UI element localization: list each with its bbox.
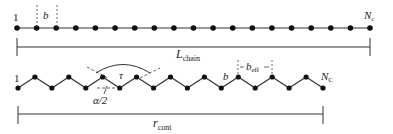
angle-label: α/2 <box>93 94 108 106</box>
top-bead <box>132 25 138 31</box>
bottom-end-label-sub: C <box>328 76 333 84</box>
zigzag-bead <box>270 74 275 79</box>
top-bead <box>191 25 197 31</box>
top-end-label-sub: c <box>371 15 374 23</box>
chain-length-label: Lchain <box>175 47 200 63</box>
top-bead <box>210 25 216 31</box>
bottom-end-label: NC <box>320 70 333 84</box>
top-bead <box>250 25 256 31</box>
zigzag-bead <box>320 85 325 90</box>
top-end-label: Nc <box>363 9 374 23</box>
zigzag-beads <box>15 74 325 90</box>
zigzag-bead <box>185 85 190 90</box>
zigzag-bead <box>66 74 71 79</box>
zigzag-bead <box>168 74 173 79</box>
zigzag-bead <box>219 85 224 90</box>
top-chain: b 1 Nc <box>13 5 374 31</box>
top-bead <box>171 25 177 31</box>
bottom-chain: 1 τ α/2 b beff NC <box>14 60 333 106</box>
top-start-label: 1 <box>13 11 19 23</box>
chain-length-bar: Lchain <box>17 38 370 63</box>
top-bead <box>14 25 20 31</box>
zigzag-bead <box>151 85 156 90</box>
beff-label: beff <box>246 60 260 74</box>
chain-diagram: b 1 Nc Lchain 1 τ α/2 b <box>0 0 393 134</box>
zigzag-bead <box>236 74 241 79</box>
contour-length-label-sub: cont <box>158 123 173 132</box>
zigzag-bead <box>15 85 20 90</box>
beff-label-sub: eff <box>252 66 260 74</box>
top-bead <box>230 25 236 31</box>
bottom-start-label: 1 <box>14 72 20 84</box>
zigzag-bead <box>49 85 54 90</box>
torsion-arc <box>96 65 150 74</box>
zigzag-bead <box>253 85 258 90</box>
torsion-label: τ <box>119 69 124 81</box>
top-bead <box>53 25 59 31</box>
top-bead <box>112 25 118 31</box>
bottom-bond-label: b <box>223 70 229 82</box>
chain-length-label-sub: chain <box>183 54 200 63</box>
zigzag-bead <box>32 74 37 79</box>
top-bead <box>328 25 334 31</box>
top-bead <box>269 25 275 31</box>
zigzag-bead <box>304 74 309 79</box>
angle-pointer <box>104 86 107 94</box>
zigzag-bead <box>117 85 122 90</box>
contour-length-label: rcont <box>153 116 172 132</box>
top-bead <box>348 25 354 31</box>
top-bead <box>289 25 295 31</box>
zigzag-bead <box>134 74 139 79</box>
contour-length-bar: rcont <box>18 106 323 132</box>
zigzag-bead <box>287 85 292 90</box>
zigzag-bead <box>202 74 207 79</box>
top-bead <box>73 25 79 31</box>
top-bond-label: b <box>43 9 49 21</box>
top-bead <box>367 25 373 31</box>
top-bead <box>152 25 158 31</box>
top-bead <box>93 25 99 31</box>
zigzag-bead <box>83 85 88 90</box>
top-bead <box>308 25 314 31</box>
